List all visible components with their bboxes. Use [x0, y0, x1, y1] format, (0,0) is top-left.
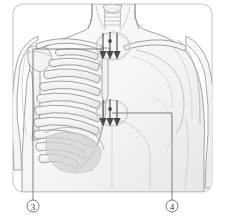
figure-container: 3 4 [0, 0, 225, 219]
callout-marker-4[interactable]: 4 [166, 200, 178, 212]
upper-auscultation-zone [96, 32, 130, 60]
lower-arrow-cluster [100, 99, 120, 125]
callout-3-label: 3 [31, 202, 36, 212]
focus-dot [108, 39, 112, 43]
upper-arrow-cluster [100, 32, 120, 58]
callout-marker-3[interactable]: 3 [27, 200, 39, 212]
focus-dot [108, 107, 112, 111]
callout-4-label: 4 [170, 202, 175, 212]
anatomy-illustration: 3 4 [0, 0, 225, 219]
